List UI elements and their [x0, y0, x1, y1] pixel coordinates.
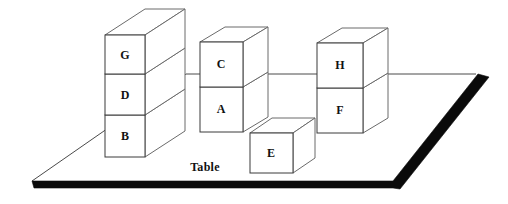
table-label: Table [190, 160, 220, 174]
block-d-label: D [121, 88, 130, 102]
block-c[interactable]: C [200, 27, 268, 87]
blocks-world-diagram: B D G A [0, 0, 508, 204]
block-e[interactable]: E [250, 118, 315, 173]
block-h-label: H [335, 58, 345, 72]
table-front-left-edge [32, 181, 393, 188]
block-a-label: A [217, 102, 226, 116]
block-b-label: B [121, 129, 129, 143]
table-right-edge [393, 74, 489, 189]
stack-right: F H [317, 28, 388, 133]
block-c-label: C [217, 57, 226, 71]
stack-middle: A C [200, 27, 268, 132]
block-f-label: F [336, 103, 343, 117]
stack-left: B D G [105, 9, 185, 157]
block-e-label: E [267, 146, 275, 160]
block-h[interactable]: H [317, 28, 388, 88]
block-g-label: G [120, 48, 129, 62]
